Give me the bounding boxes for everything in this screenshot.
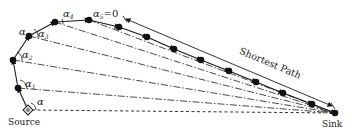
shortest-path-dimension [123, 16, 335, 109]
node-12 [280, 90, 287, 97]
alpha-3-label: α3 [38, 29, 49, 40]
alpha-top-label: α [19, 27, 26, 37]
node-10 [226, 68, 233, 75]
alpha-2-label: α2 [22, 50, 33, 61]
alpha-4-label: α4 [63, 9, 74, 20]
node-1 [15, 85, 22, 92]
node-3 [26, 33, 33, 40]
alpha-5-label: α5=0 [93, 9, 118, 20]
node-9 [198, 57, 205, 64]
alpha-source-label: α [37, 97, 44, 107]
node-2 [10, 57, 17, 64]
node-5 [86, 17, 93, 24]
sink-label: Sink [322, 120, 342, 129]
node-6 [116, 24, 123, 31]
alpha-1-label: α1 [25, 79, 36, 90]
source-node-icon [23, 105, 33, 115]
baseline-dashed [32, 110, 335, 113]
node-13 [309, 101, 316, 108]
sink-node [332, 110, 339, 117]
path-diagram [0, 0, 355, 137]
node-8 [171, 46, 178, 53]
node-4 [52, 19, 59, 26]
node-7 [144, 34, 151, 41]
node-11 [253, 79, 260, 86]
source-label: Source [8, 118, 40, 127]
